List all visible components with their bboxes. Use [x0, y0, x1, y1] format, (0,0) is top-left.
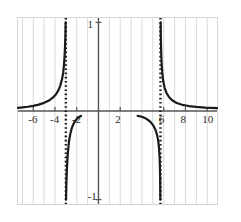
y-tick-label: 1 — [87, 19, 93, 30]
chart-canvas — [0, 0, 241, 222]
x-tick-label: 6 — [159, 114, 165, 125]
curve-branch-lower-middle-right — [138, 116, 161, 200]
x-tick-label: -4 — [50, 114, 59, 125]
x-tick-label: 10 — [202, 114, 213, 125]
axes-group — [18, 18, 217, 204]
y-tick-label: -1 — [87, 191, 96, 202]
x-tick-label: -6 — [28, 114, 37, 125]
figure-container: -6-4-2268101-1 — [0, 0, 241, 222]
curve-branch-lower-middle-left — [66, 116, 81, 200]
curve-branch-upper-left — [18, 22, 66, 107]
curve-branch-upper-right — [161, 22, 217, 108]
x-tick-label: 2 — [115, 114, 121, 125]
x-tick-label: 8 — [180, 114, 186, 125]
x-tick-label: -2 — [72, 114, 81, 125]
